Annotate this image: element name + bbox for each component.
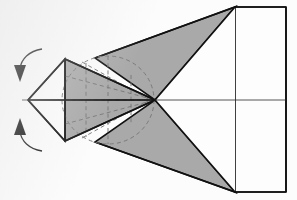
right-rectangle-panel <box>235 7 286 192</box>
geometric-figure <box>0 0 297 200</box>
diagram-canvas <box>0 0 297 200</box>
